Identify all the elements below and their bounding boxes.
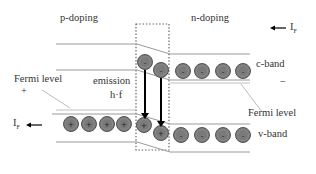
- emission-energy-label: h·f: [110, 90, 122, 101]
- electron-icon: -: [216, 128, 231, 143]
- svg-text:+: +: [86, 120, 91, 130]
- svg-text:-: -: [144, 58, 147, 67]
- svg-text:-: -: [182, 67, 185, 76]
- electron-icon: -: [138, 55, 153, 70]
- hole-icon: +: [117, 117, 132, 132]
- svg-text:-: -: [242, 67, 245, 76]
- emission-label: emission: [93, 76, 130, 87]
- c-band-label: c-band: [256, 59, 285, 70]
- electron-icon: -: [236, 128, 251, 143]
- electron-icon: -: [195, 128, 210, 143]
- svg-text:-: -: [201, 131, 204, 140]
- svg-text:+: +: [121, 120, 126, 130]
- svg-text:+: +: [104, 120, 109, 130]
- current-subscript: F: [17, 124, 20, 130]
- v-band-label: v-band: [258, 129, 287, 140]
- hole-icon: +: [137, 118, 152, 133]
- svg-text:+: +: [68, 120, 73, 130]
- svg-text:+: +: [158, 129, 163, 139]
- fermi-left-label: Fermi level: [14, 74, 62, 85]
- valence-electrons: - - - -: [174, 128, 251, 143]
- current-label-right: IF: [290, 22, 297, 33]
- band-diagram: - - - - - - + + + + + + - - - -: [0, 0, 316, 174]
- p-doping-label: p-doping: [60, 13, 98, 24]
- svg-text:-: -: [242, 131, 245, 140]
- hole-icon: +: [154, 126, 169, 141]
- svg-text:-: -: [222, 131, 225, 140]
- svg-text:-: -: [160, 66, 163, 75]
- hole-icon: +: [64, 117, 79, 132]
- fermi-right-sign: −: [280, 77, 286, 88]
- hole-icon: +: [82, 117, 97, 132]
- holes: + + + + + +: [64, 117, 169, 141]
- svg-text:+: +: [141, 121, 146, 131]
- current-symbol: I: [290, 21, 294, 32]
- current-symbol: I: [13, 117, 17, 128]
- electron-icon: -: [195, 64, 210, 79]
- electron-icon: -: [236, 64, 251, 79]
- electron-icon: -: [174, 128, 189, 143]
- svg-text:-: -: [222, 67, 225, 76]
- svg-text:-: -: [201, 67, 204, 76]
- fermi-left-sign: +: [21, 86, 27, 97]
- current-arrow-right-icon: [270, 26, 286, 31]
- fermi-left-pointer: [42, 90, 70, 108]
- electron-icon: -: [216, 64, 231, 79]
- n-doping-label: n-doping: [191, 13, 229, 24]
- electron-icon: -: [154, 63, 169, 78]
- svg-text:-: -: [180, 131, 183, 140]
- current-arrow-left-icon: [26, 123, 42, 128]
- electron-icon: -: [176, 64, 191, 79]
- current-subscript: F: [294, 28, 297, 34]
- fermi-right-label: Fermi level: [248, 108, 296, 119]
- hole-icon: +: [100, 117, 115, 132]
- conduction-band-upper-line: [56, 44, 250, 54]
- current-label-left: IF: [13, 118, 20, 129]
